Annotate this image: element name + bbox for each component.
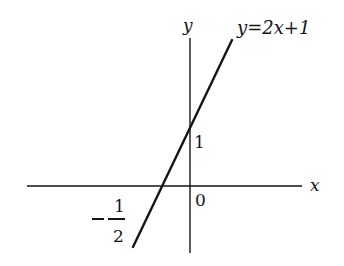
equation-label: y=2x+1 <box>237 19 310 37</box>
y-axis-label: y <box>183 17 193 34</box>
equation-text: y=2x+1 <box>237 17 310 38</box>
fraction-numerator: 1 <box>114 198 125 215</box>
x-intercept-label: 1 2 <box>92 196 134 252</box>
function-line <box>133 40 232 247</box>
function-graph <box>0 0 344 266</box>
origin-label: 0 <box>195 192 206 209</box>
fraction-bar <box>108 218 125 220</box>
y-intercept-label: 1 <box>194 134 205 151</box>
fraction-denominator: 2 <box>113 228 124 245</box>
minus-sign <box>92 218 104 220</box>
x-axis-label: x <box>310 177 320 194</box>
